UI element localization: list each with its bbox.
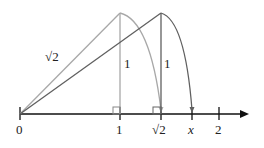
- tick-label-sqrt2: √2: [152, 122, 166, 137]
- tick-label-0: 0: [16, 122, 23, 137]
- hypotenuse-label: √2: [45, 49, 59, 64]
- tick-label-2: 2: [215, 122, 222, 137]
- leg-label-second: 1: [164, 56, 171, 71]
- arc-arrowhead-icon: [190, 107, 195, 113]
- leg-label-first: 1: [124, 56, 131, 71]
- tick-label-x: x: [187, 122, 194, 137]
- hypotenuse-sqrt2: [20, 13, 120, 114]
- number-line-diagram: √2 1 1 0 1 √2 x 2: [0, 0, 264, 148]
- axis-arrow-icon: [240, 110, 249, 118]
- tick-label-1: 1: [116, 122, 123, 137]
- right-angle-marker-1: [113, 107, 120, 114]
- hypotenuse-x: [20, 13, 161, 114]
